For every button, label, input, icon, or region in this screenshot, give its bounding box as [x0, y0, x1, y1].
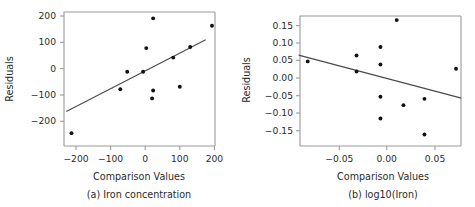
panel-a-ytick-marks	[60, 16, 64, 121]
data-point	[395, 18, 399, 22]
panel-a-ylabel: Residuals	[4, 56, 15, 102]
panel-a-svg: Residuals 200 100 0 −100 −200	[0, 0, 237, 207]
panel-b-xtick-0p05: 0.05	[425, 153, 446, 164]
panel-a-frame	[64, 12, 215, 146]
panel-a-xtick-neg200: −200	[63, 153, 88, 164]
panel-b-reference-line	[299, 55, 462, 98]
data-point	[355, 54, 359, 58]
panel-a-caption: (a) Iron concentration	[87, 189, 191, 200]
panel-a-xtick-marks	[76, 146, 214, 150]
data-point	[118, 87, 122, 91]
panel-b-xtick-neg0p05: −0.05	[325, 153, 353, 164]
data-point	[171, 56, 175, 60]
panel-a-xtick-200: 200	[206, 153, 224, 164]
data-point	[125, 70, 129, 74]
panel-b-svg: Residuals 0.15 0.10 0.05 0.00 −0.05 −0.1…	[237, 0, 475, 207]
data-point	[423, 97, 427, 101]
data-point	[70, 131, 74, 135]
panel-a-datapoints	[70, 16, 214, 135]
panel-a-xtick-neg100: −100	[98, 153, 123, 164]
scatter-panel-iron-concentration: Residuals 200 100 0 −100 −200	[0, 0, 237, 207]
panel-b-ytick-neg0p15: −0.15	[265, 125, 293, 136]
panel-a-ytick-neg200: −200	[31, 115, 56, 126]
panel-b-frame	[300, 16, 461, 146]
figure-container: Residuals 200 100 0 −100 −200	[0, 0, 475, 207]
panel-a-xlabel: Comparison Values	[93, 171, 185, 182]
panel-b-ytick-neg0p05: −0.05	[265, 90, 293, 101]
panel-b-ytick-neg0p10: −0.10	[265, 107, 293, 118]
scatter-panel-log10-iron: Residuals 0.15 0.10 0.05 0.00 −0.05 −0.1…	[237, 0, 475, 207]
panel-b-ytick-marks	[296, 26, 300, 131]
data-point	[178, 85, 182, 89]
panel-a-ytick-0: 0	[50, 63, 56, 74]
data-point	[188, 45, 192, 49]
data-point	[379, 95, 383, 99]
data-point	[379, 117, 383, 121]
panel-b-caption: (b) log10(Iron)	[348, 189, 417, 200]
data-point	[151, 16, 155, 20]
panel-a-ytick-100: 100	[38, 36, 56, 47]
data-point	[379, 63, 383, 67]
panel-b-xtick-0p00: 0.00	[376, 153, 397, 164]
panel-b-ytick-0p00: 0.00	[273, 72, 294, 83]
panel-b-ytick-0p10: 0.10	[273, 37, 294, 48]
data-point	[454, 67, 458, 71]
panel-b-xlabel: Comparison Values	[337, 171, 429, 182]
panel-a-reference-line	[66, 40, 205, 112]
data-point	[150, 96, 154, 100]
data-point	[379, 45, 383, 49]
panel-b-ylabel: Residuals	[241, 57, 252, 103]
panel-b-xtick-marks	[339, 146, 435, 150]
data-point	[423, 133, 427, 137]
data-point	[401, 103, 405, 107]
panel-a-ytick-neg100: −100	[31, 89, 56, 100]
data-point	[210, 24, 214, 28]
panel-a-xtick-0: 0	[142, 153, 148, 164]
data-point	[141, 70, 145, 74]
data-point	[151, 89, 155, 93]
panel-b-ytick-0p05: 0.05	[273, 54, 294, 65]
panel-a-xtick-100: 100	[171, 153, 189, 164]
panel-a-ytick-200: 200	[38, 10, 56, 21]
data-point	[355, 70, 359, 74]
data-point	[306, 59, 310, 63]
data-point	[144, 46, 148, 50]
panel-b-ytick-0p15: 0.15	[273, 20, 294, 31]
